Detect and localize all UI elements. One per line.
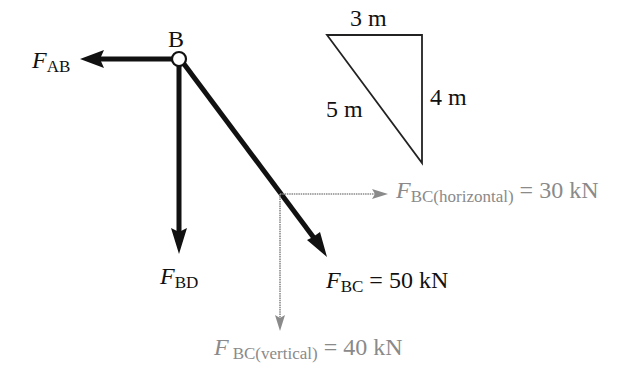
component-vertical-arrow xyxy=(275,194,285,331)
node-b-circle xyxy=(172,52,186,66)
component-vertical-label: FBC(vertical)=40 kN xyxy=(213,334,403,363)
component-horizontal-label: FBC(horizontal)=30 kN xyxy=(395,177,598,206)
free-body-diagram: B FAB FBD FBC=50 kN FBC(horizontal)=30 k… xyxy=(0,0,635,382)
triangle-top-label: 3 m xyxy=(350,5,387,31)
force-bd-label: FBD xyxy=(159,263,198,292)
force-bc-label: FBC=50 kN xyxy=(325,267,448,296)
force-bc-arrow xyxy=(184,64,327,257)
component-horizontal-arrow xyxy=(280,189,388,199)
force-ab-label: FAB xyxy=(31,47,70,76)
triangle-right-label: 4 m xyxy=(430,84,467,110)
node-b-label: B xyxy=(168,26,184,52)
force-bd-arrow xyxy=(171,66,187,254)
force-ab-arrow xyxy=(80,50,172,68)
triangle-hypotenuse-label: 5 m xyxy=(326,96,363,122)
